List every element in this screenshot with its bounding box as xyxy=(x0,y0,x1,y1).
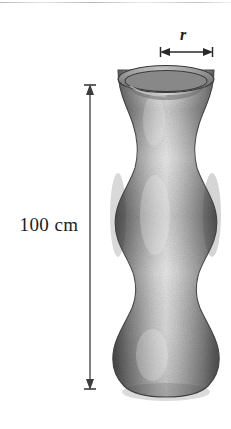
height-dimension-arrow xyxy=(84,84,96,390)
height-dimension-label: 100 cm xyxy=(12,215,86,234)
radius-dimension-arrow xyxy=(160,47,213,57)
vase-figure: 100 cm r xyxy=(0,0,231,429)
radius-dimension-label: r xyxy=(173,27,193,43)
